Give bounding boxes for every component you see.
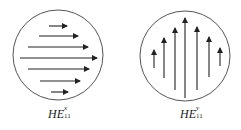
label-subscript: 11 [196,113,203,120]
mode-diagram [0,0,241,130]
hey-mode-label: HEy11 [180,106,203,120]
hex-mode-label: HEx11 [48,106,71,120]
hex-mode-panel [13,10,103,100]
label-superscript: y [196,105,199,112]
label-superscript: x [64,105,67,112]
label-main: HE [180,107,196,121]
hey-mode-panel [140,11,230,101]
fiber-core-circle [13,10,103,100]
label-subscript: 11 [64,113,71,120]
label-main: HE [48,107,64,121]
